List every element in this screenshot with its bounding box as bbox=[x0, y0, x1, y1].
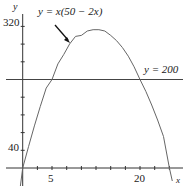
line-label: y = 200 bbox=[144, 64, 178, 75]
parabola-curve bbox=[20, 30, 173, 186]
x-axis-label: x bbox=[176, 176, 180, 185]
y-tick-label-320: 320 bbox=[3, 17, 20, 28]
y-tick-label-40: 40 bbox=[8, 142, 19, 153]
chart-canvas bbox=[0, 0, 183, 186]
curve-label: y = x(50 − 2x) bbox=[38, 6, 102, 17]
arrowhead-icon bbox=[64, 37, 70, 43]
y-axis-label: y bbox=[13, 2, 17, 12]
annotation-arrow bbox=[55, 25, 68, 40]
x-tick-label-5: 5 bbox=[48, 173, 54, 184]
x-tick-label-20: 20 bbox=[134, 173, 145, 184]
